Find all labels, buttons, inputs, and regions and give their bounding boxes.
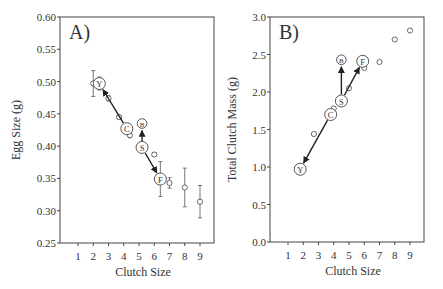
y-tick-label: 0.50 [37, 76, 57, 88]
data-point [197, 199, 202, 204]
plot-frame [60, 17, 214, 243]
point-label: C [328, 110, 334, 120]
x-axis-label: Clutch Size [325, 264, 381, 278]
x-tick-label: 6 [152, 250, 158, 262]
trend-arrow [304, 120, 328, 163]
x-tick-label: 2 [91, 250, 97, 262]
x-tick-label: 7 [167, 250, 173, 262]
y-axis-label: Total Clutch Mass (g) [225, 77, 239, 182]
y-tick-label: 0.35 [37, 172, 57, 184]
point-label: B [140, 121, 145, 129]
x-tick-label: 8 [392, 249, 398, 261]
x-tick-label: 6 [362, 249, 368, 261]
point-label: S [339, 97, 344, 107]
plot-frame [270, 17, 424, 242]
data-point [311, 131, 316, 136]
point-label: F [158, 175, 163, 185]
y-tick-label: 2.0 [252, 86, 266, 98]
y-tick-label: 0.55 [37, 43, 57, 55]
y-tick-label: 0.45 [37, 108, 57, 120]
point-label: S [140, 143, 145, 153]
panel-a-egg-size-chart: 1234567890.250.300.350.400.450.500.550.6… [9, 11, 214, 279]
point-label: C [124, 124, 130, 134]
data-point [182, 185, 187, 190]
point-label: Y [297, 165, 303, 175]
y-tick-label: 0.25 [37, 237, 57, 249]
x-tick-label: 5 [136, 250, 142, 262]
data-point [167, 180, 172, 185]
y-tick-label: 2.5 [252, 49, 266, 61]
x-tick-label: 3 [106, 250, 112, 262]
panel-b-clutch-mass-chart: 1234567890.00.51.01.52.02.53.0Clutch Siz… [225, 11, 424, 278]
point-label: F [360, 57, 365, 67]
x-tick-label: 4 [331, 249, 337, 261]
panel-label: B) [279, 21, 299, 44]
y-tick-label: 0.30 [37, 205, 57, 217]
x-tick-label: 8 [182, 250, 188, 262]
panel-label: A) [69, 21, 90, 44]
x-tick-label: 5 [346, 249, 352, 261]
x-tick-label: 2 [301, 249, 307, 261]
y-tick-label: 0.5 [252, 199, 266, 211]
x-axis-label: Clutch Size [115, 265, 171, 279]
x-tick-label: 4 [121, 250, 127, 262]
point-label: Y [96, 79, 102, 89]
point-label: B [339, 57, 344, 65]
figure: 1234567890.250.300.350.400.450.500.550.6… [0, 0, 443, 289]
x-tick-label: 1 [75, 250, 81, 262]
y-tick-label: 1.0 [252, 161, 266, 173]
y-axis-label: Egg Size (g) [9, 100, 23, 160]
y-tick-label: 0.0 [252, 236, 266, 248]
y-tick-label: 3.0 [252, 11, 266, 23]
trend-arrow [103, 89, 123, 123]
x-tick-label: 1 [285, 249, 291, 261]
y-tick-label: 0.60 [37, 11, 57, 23]
data-point [377, 59, 382, 64]
data-point [152, 152, 157, 157]
x-tick-label: 7 [377, 249, 383, 261]
data-point [392, 37, 397, 42]
x-tick-label: 9 [407, 249, 413, 261]
x-tick-label: 9 [197, 250, 203, 262]
x-tick-label: 3 [316, 249, 322, 261]
y-tick-label: 1.5 [252, 124, 266, 136]
y-tick-label: 0.40 [37, 140, 57, 152]
data-point [407, 28, 412, 33]
trend-arrow [344, 67, 359, 95]
